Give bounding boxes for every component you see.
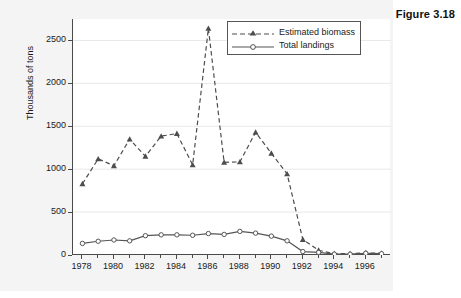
x-axis-tick-mark (381, 255, 382, 258)
x-axis-tick-mark (97, 255, 98, 258)
y-axis-tick-label: 2000 (32, 78, 66, 87)
y-axis-tick-label: 1000 (32, 164, 66, 173)
x-axis-tick-mark (223, 255, 224, 258)
legend-label-total-landings: Total landings (279, 40, 334, 50)
x-axis-tick-mark (113, 255, 114, 259)
x-axis-tick-mark (239, 255, 240, 259)
x-axis-tick-mark (365, 255, 366, 259)
legend-key-solid-circle (232, 39, 274, 51)
x-axis-tick-mark (302, 255, 303, 259)
y-axis-tick-label: 500 (32, 207, 66, 216)
chart-legend: Estimated biomass Total landings (227, 21, 361, 55)
x-axis-tick-mark (176, 255, 177, 259)
x-axis-tick-mark (333, 255, 334, 259)
y-axis-tick-label: 0 (32, 250, 66, 259)
x-axis-tick-mark (255, 255, 256, 258)
x-axis-tick-mark (349, 255, 350, 258)
x-axis-tick-mark (144, 255, 145, 259)
figure-screenshot: Figure 3.18 Thousands of tons 0500100015… (0, 0, 461, 298)
x-axis-tick-mark (286, 255, 287, 258)
x-axis-tick-mark (318, 255, 319, 258)
legend-item-total-landings: Total landings (232, 38, 355, 51)
x-axis-tick-mark (270, 255, 271, 259)
legend-label-estimated-biomass: Estimated biomass (279, 27, 355, 37)
figure-title: Figure 3.18 (396, 8, 455, 20)
legend-key-dashed-triangle (232, 26, 274, 38)
x-axis-tick-mark (207, 255, 208, 259)
x-axis-tick-mark (160, 255, 161, 258)
legend-item-estimated-biomass: Estimated biomass (232, 25, 355, 38)
x-axis-tick-mark (129, 255, 130, 258)
x-axis-tick-mark (192, 255, 193, 258)
y-axis-tick-label: 2500 (32, 35, 66, 44)
y-axis-tick-label: 1500 (32, 121, 66, 130)
x-axis-tick-label: 1996 (345, 261, 385, 271)
x-axis-tick-mark (81, 255, 82, 259)
y-axis-tick-mark (68, 255, 72, 256)
